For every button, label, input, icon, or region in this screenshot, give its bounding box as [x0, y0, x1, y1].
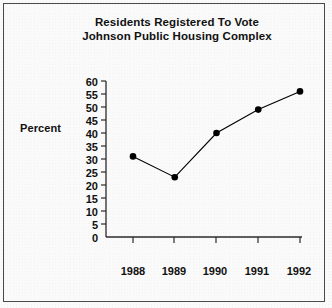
- data-point-1989: [171, 174, 178, 181]
- data-point-1992: [297, 88, 304, 95]
- chart-page: Residents Registered To Vote Johnson Pub…: [0, 0, 332, 308]
- data-point-1988: [130, 153, 137, 160]
- data-point-1991: [255, 106, 262, 113]
- data-point-1990: [213, 130, 220, 137]
- x-axis-ticks: [133, 237, 300, 243]
- data-series-markers: [130, 88, 304, 180]
- y-axis-ticks: [101, 81, 106, 224]
- line-chart-plot: [0, 0, 332, 308]
